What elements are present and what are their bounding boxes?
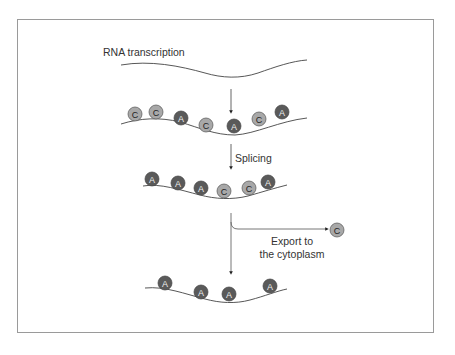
bead-c: C (199, 118, 213, 132)
bead-c: C (252, 112, 266, 126)
bead-a: A (194, 285, 208, 299)
svg-text:C: C (221, 187, 228, 197)
rna-strand-unspliced (121, 118, 307, 135)
rna-diagram: C C A C A C A A A A C C A C A A A A (0, 0, 455, 355)
bead-a: A (171, 176, 185, 190)
svg-text:A: A (149, 175, 155, 185)
svg-text:A: A (178, 114, 184, 124)
svg-text:C: C (334, 226, 341, 236)
rna-strand-initial (121, 60, 307, 77)
label-splicing: Splicing (235, 152, 272, 164)
bead-c: C (217, 184, 231, 198)
svg-text:C: C (246, 184, 253, 194)
svg-text:C: C (153, 108, 160, 118)
bead-c: C (242, 181, 256, 195)
svg-text:A: A (175, 179, 181, 189)
bead-c-exported: C (330, 223, 344, 237)
bead-c: C (128, 107, 142, 121)
bead-a: A (174, 111, 188, 125)
bead-a: A (263, 279, 277, 293)
svg-text:C: C (256, 115, 263, 125)
svg-text:A: A (162, 279, 168, 289)
bead-a: A (261, 175, 275, 189)
label-export-line2: the cytoplasm (249, 248, 335, 260)
bead-c: C (149, 105, 163, 119)
bead-a: A (227, 119, 241, 133)
svg-text:A: A (198, 184, 204, 194)
svg-text:A: A (226, 290, 232, 300)
svg-text:A: A (265, 178, 271, 188)
svg-text:C: C (132, 110, 139, 120)
bead-a: A (194, 181, 208, 195)
bead-a: A (158, 276, 172, 290)
bead-a: A (222, 287, 236, 301)
svg-text:A: A (198, 288, 204, 298)
label-export-line1: Export to (257, 235, 327, 247)
svg-text:A: A (267, 282, 273, 292)
bead-a: A (145, 172, 159, 186)
svg-text:C: C (203, 121, 210, 131)
bead-a: A (275, 105, 289, 119)
svg-text:A: A (231, 122, 237, 132)
arrow-export (231, 222, 327, 229)
svg-text:A: A (279, 108, 285, 118)
label-rna-transcription: RNA transcription (103, 46, 185, 58)
